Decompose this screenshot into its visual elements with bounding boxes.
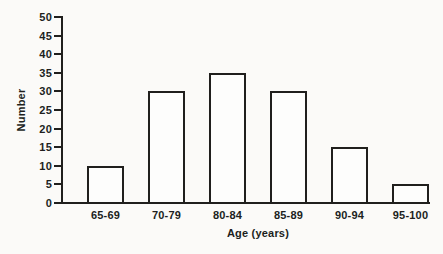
x-axis-line [61, 202, 430, 204]
y-tick [54, 35, 61, 37]
x-tick-label-95-100: 95-100 [379, 209, 443, 221]
y-tick [54, 109, 61, 111]
x-tick-label-80-84: 80-84 [196, 209, 260, 221]
y-axis-line [61, 16, 63, 204]
y-tick [54, 146, 61, 148]
y-tick-label-50: 50 [26, 11, 52, 23]
y-tick [54, 53, 61, 55]
bar-65-69 [87, 166, 124, 203]
y-tick [54, 72, 61, 74]
x-tick-label-85-89: 85-89 [257, 209, 321, 221]
y-tick-label-30: 30 [26, 85, 52, 97]
y-tick-label-10: 10 [26, 160, 52, 172]
y-tick [54, 165, 61, 167]
y-tick-label-45: 45 [26, 30, 52, 42]
y-tick [54, 202, 61, 204]
plot-area: 65-6970-7980-8485-8990-9495-100051015202… [0, 0, 443, 254]
y-tick [54, 183, 61, 185]
y-tick-label-35: 35 [26, 67, 52, 79]
y-tick-label-20: 20 [26, 123, 52, 135]
bar-80-84 [209, 73, 246, 203]
y-tick [54, 90, 61, 92]
y-tick-label-0: 0 [26, 197, 52, 209]
y-tick-label-5: 5 [26, 178, 52, 190]
y-tick-label-40: 40 [26, 48, 52, 60]
x-tick-label-90-94: 90-94 [318, 209, 382, 221]
bar-90-94 [331, 147, 368, 203]
y-tick [54, 128, 61, 130]
bar-95-100 [392, 184, 429, 203]
bar-chart-figure: Number 65-6970-7980-8485-8990-9495-10005… [0, 0, 443, 254]
x-axis-label: Age (years) [198, 227, 318, 239]
y-tick-label-15: 15 [26, 141, 52, 153]
x-tick-label-70-79: 70-79 [135, 209, 199, 221]
y-tick [54, 16, 61, 18]
bar-85-89 [270, 91, 307, 203]
x-tick-label-65-69: 65-69 [74, 209, 138, 221]
bar-70-79 [148, 91, 185, 203]
y-tick-label-25: 25 [26, 104, 52, 116]
